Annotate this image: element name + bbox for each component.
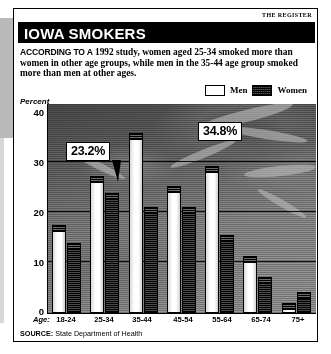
x-tick-35-44: 35-44 xyxy=(125,315,159,324)
y-tick-20: 20 xyxy=(30,207,44,218)
bar-cap xyxy=(68,244,80,250)
legend-label-men: Men xyxy=(230,85,248,95)
title-bar: IOWA SMOKERS xyxy=(18,22,315,43)
bar-cap xyxy=(145,208,157,214)
bar-cap xyxy=(298,293,310,299)
y-tick-30: 30 xyxy=(30,157,44,168)
bar-men-18-24 xyxy=(52,225,66,313)
x-tick-55-64: 55-64 xyxy=(205,315,239,324)
bar-men-25-34 xyxy=(90,176,104,313)
bar-cap xyxy=(259,278,271,284)
x-tick-25-34: 25-34 xyxy=(87,315,121,324)
bar-men-65-74 xyxy=(243,256,257,313)
legend-label-women: Women xyxy=(277,85,307,95)
bar-women-18-24 xyxy=(67,243,81,313)
legend-swatch-men-icon xyxy=(205,85,225,96)
x-tick-45-54: 45-54 xyxy=(166,315,200,324)
bar-women-55-64 xyxy=(220,235,234,313)
y-tick-40: 40 xyxy=(30,107,44,118)
bar-cap xyxy=(221,236,233,242)
masthead-label: THE REGISTER xyxy=(262,12,312,18)
bar-cap xyxy=(183,208,195,214)
bar-chart-plot-area: 23.2%34.8% xyxy=(47,104,316,314)
bar-cap xyxy=(244,257,256,263)
bar-women-75+ xyxy=(297,292,311,313)
source-line: SOURCE: State Department of Health xyxy=(20,329,142,338)
x-tick-65-74: 65-74 xyxy=(244,315,278,324)
source-label: SOURCE: xyxy=(20,329,53,338)
age-prefix-label: Age: xyxy=(33,315,50,324)
bar-cap xyxy=(283,304,295,310)
bar-men-55-64 xyxy=(205,166,219,313)
article-frame: THE REGISTER IOWA SMOKERS ACCORDING TO A… xyxy=(13,8,318,342)
y-axis-title: Percent xyxy=(20,97,49,106)
bar-women-65-74 xyxy=(258,277,272,313)
bar-cap xyxy=(106,194,118,200)
bar-cap xyxy=(168,187,180,193)
legend-swatch-women-icon xyxy=(252,85,272,96)
callout-34-8: 34.8% xyxy=(198,122,242,141)
bar-cap xyxy=(53,226,65,232)
bar-women-25-34 xyxy=(105,193,119,313)
bar-men-35-44 xyxy=(129,133,143,313)
gridline-30 xyxy=(48,161,316,162)
callout-23-2: 23.2% xyxy=(66,142,110,161)
y-tick-10: 10 xyxy=(30,257,44,268)
x-tick-18-24: 18-24 xyxy=(49,315,83,324)
page-title: IOWA SMOKERS xyxy=(24,25,146,42)
callout-pointer-icon xyxy=(112,160,121,182)
bar-men-75+ xyxy=(282,303,296,313)
bar-men-45-54 xyxy=(167,186,181,313)
bar-cap xyxy=(206,167,218,173)
infographic-page: THE REGISTER IOWA SMOKERS ACCORDING TO A… xyxy=(0,0,331,354)
deck-lead-in: ACCORDING TO A xyxy=(20,47,93,57)
bar-cap xyxy=(91,177,103,183)
bar-cap xyxy=(130,134,142,140)
bar-women-45-54 xyxy=(182,207,196,313)
bar-women-35-44 xyxy=(144,207,158,313)
x-tick-75plus: 75+ xyxy=(285,315,311,324)
chart-legend: Men Women xyxy=(203,82,309,98)
deck-paragraph: ACCORDING TO A 1992 study, women aged 25… xyxy=(20,47,312,79)
x-axis-labels: Age: 18-24 25-34 35-44 45-54 55-64 65-74… xyxy=(27,315,317,327)
source-value: State Department of Health xyxy=(53,329,142,338)
page-gutter-strip-bottom xyxy=(0,138,4,323)
